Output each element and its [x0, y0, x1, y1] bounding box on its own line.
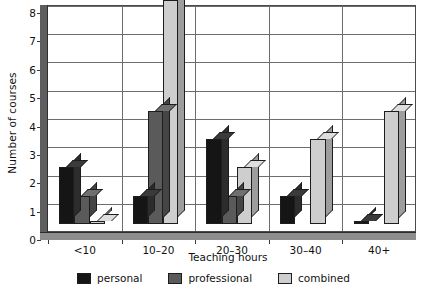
- chart-legend: personalprofessionalcombined: [0, 272, 427, 284]
- x-tick-mark: [195, 240, 196, 244]
- bar-top: [317, 132, 339, 139]
- bar-series-container: [48, 5, 416, 232]
- bar-personal-30–40: [280, 196, 295, 224]
- bar-face: [384, 111, 399, 225]
- bar-face: [206, 139, 221, 224]
- bar-combined-30–40: [310, 139, 325, 224]
- bar-side: [295, 182, 302, 217]
- bar-face: [133, 196, 148, 224]
- y-tick-label: 3: [20, 150, 36, 160]
- y-tick-label: 7: [20, 36, 36, 46]
- x-tick-mark: [269, 240, 270, 244]
- bar-top: [361, 214, 383, 221]
- light-gray-swatch: [278, 273, 292, 284]
- y-tick-label: 1: [20, 207, 36, 217]
- bar-side: [163, 97, 170, 218]
- legend-label: combined: [298, 272, 350, 284]
- legend-label: personal: [97, 272, 142, 284]
- bar-top: [66, 160, 88, 167]
- bar-face: [59, 167, 74, 224]
- bar-top: [287, 189, 309, 196]
- y-tick-label: 6: [20, 65, 36, 75]
- legend-item-combined[interactable]: combined: [278, 272, 350, 284]
- bar-combined-<10: [90, 221, 105, 224]
- y-tick-label: 5: [20, 93, 36, 103]
- bar-side: [90, 182, 97, 217]
- bar-face: [90, 221, 105, 224]
- y-tick-label: 0: [20, 235, 36, 245]
- dark-gray-swatch: [168, 273, 182, 284]
- bar-face: [310, 139, 325, 224]
- x-tick-mark: [342, 240, 343, 244]
- bar-top: [244, 160, 266, 167]
- plot-floor: [40, 232, 416, 240]
- bar-personal-20–30: [206, 139, 221, 224]
- y-tick-label: 2: [20, 178, 36, 188]
- black-swatch: [77, 273, 91, 284]
- y-tick-label: 4: [20, 122, 36, 132]
- y-axis-title-text: Number of courses: [6, 72, 18, 173]
- legend-item-personal[interactable]: personal: [77, 272, 142, 284]
- bar-personal-10–20: [133, 196, 148, 224]
- legend-label: professional: [188, 272, 252, 284]
- plot-left-wall: [40, 5, 48, 240]
- x-axis-title: Teaching hours: [40, 251, 416, 263]
- x-tick-mark: [48, 240, 49, 244]
- bar-top: [81, 189, 103, 196]
- bar-top: [213, 132, 235, 139]
- bar-combined-40+: [384, 111, 399, 225]
- bar-face: [280, 196, 295, 224]
- bar-chart-figure: Number of courses 012345678 <1010–2020–3…: [0, 0, 427, 301]
- x-tick-mark: [122, 240, 123, 244]
- plot-area: [40, 5, 416, 240]
- bar-side: [399, 97, 406, 218]
- bar-top: [97, 214, 119, 221]
- legend-item-professional[interactable]: professional: [168, 272, 252, 284]
- bar-personal-40+: [354, 221, 369, 224]
- bar-top: [391, 104, 413, 111]
- y-tick-mark: [37, 240, 41, 241]
- bar-face: [354, 221, 369, 224]
- y-tick-label: 8: [20, 8, 36, 18]
- bar-personal-<10: [59, 167, 74, 224]
- bar-side: [178, 0, 185, 217]
